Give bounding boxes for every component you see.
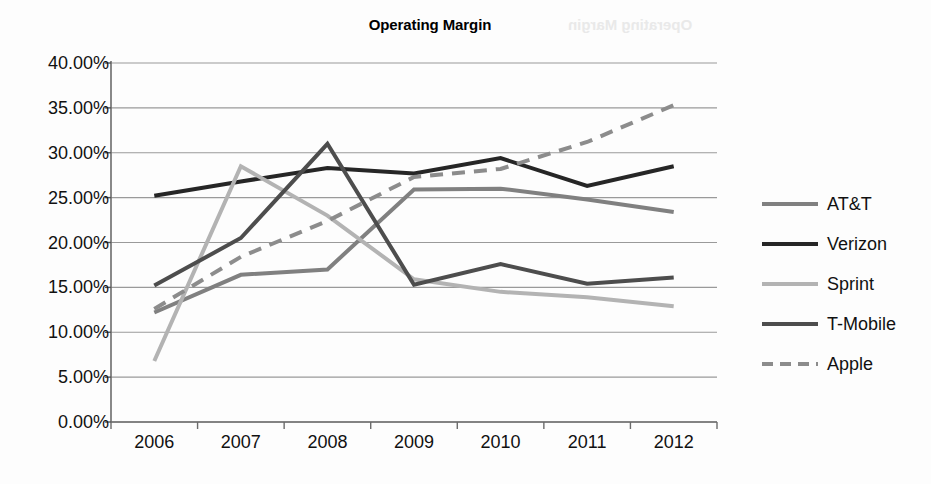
chart-legend: AT&TVerizonSprintT-MobileApple xyxy=(762,184,930,384)
legend-item-apple[interactable]: Apple xyxy=(762,344,930,384)
legend-item-verizon[interactable]: Verizon xyxy=(762,224,930,264)
legend-line-swatch-icon xyxy=(762,197,818,211)
legend-line-swatch-icon xyxy=(762,357,818,371)
x-axis-tick-labels: 2006200720082009201020112012 xyxy=(0,0,760,484)
legend-line-swatch-icon xyxy=(762,317,818,331)
operating-margin-chart: Operating Margin Operating Margin 40.00%… xyxy=(0,0,931,484)
x-tick-label: 2007 xyxy=(201,432,281,452)
legend-item-at-t[interactable]: AT&T xyxy=(762,184,930,224)
legend-label: AT&T xyxy=(827,194,872,214)
plot-area: 40.00%35.00%30.00%25.00%20.00%15.00%10.0… xyxy=(0,0,760,484)
legend-item-t-mobile[interactable]: T-Mobile xyxy=(762,304,930,344)
x-tick-label: 2012 xyxy=(634,432,714,452)
x-tick-label: 2009 xyxy=(374,432,454,452)
legend-label: T-Mobile xyxy=(827,314,896,334)
x-tick-label: 2008 xyxy=(287,432,367,452)
legend-label: Verizon xyxy=(827,234,887,254)
legend-label: Apple xyxy=(827,354,873,374)
x-tick-label: 2011 xyxy=(547,432,627,452)
legend-item-sprint[interactable]: Sprint xyxy=(762,264,930,304)
x-tick-label: 2006 xyxy=(114,432,194,452)
x-tick-label: 2010 xyxy=(461,432,541,452)
legend-line-swatch-icon xyxy=(762,237,818,251)
legend-label: Sprint xyxy=(827,274,874,294)
legend-line-swatch-icon xyxy=(762,277,818,291)
